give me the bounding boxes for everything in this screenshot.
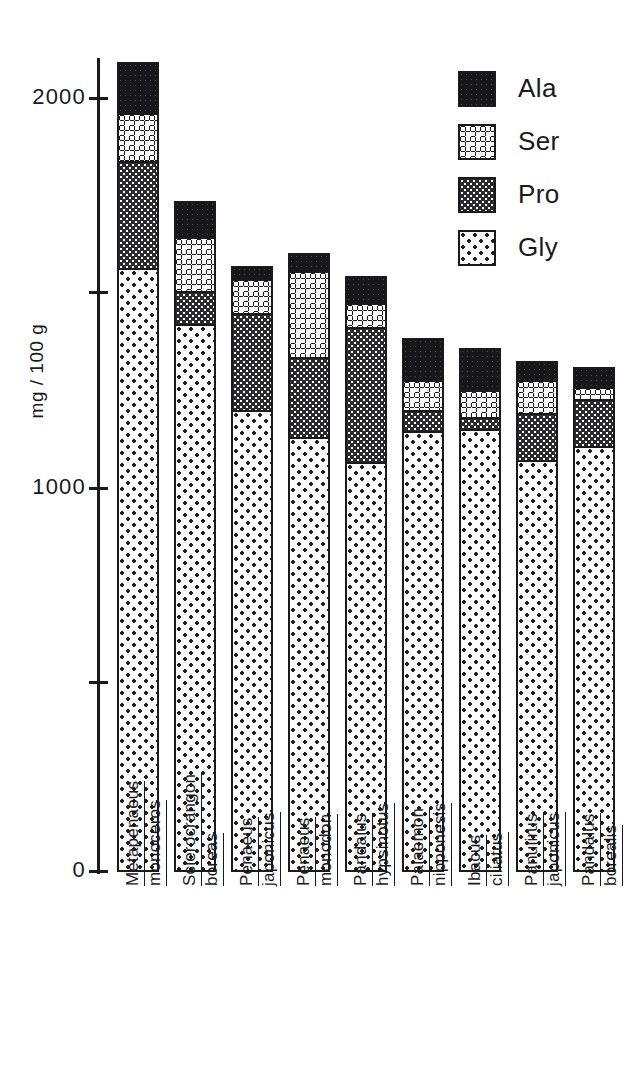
x-label-sclerocrangon-boreas: Sclerocrangon boreas	[180, 696, 224, 886]
x-label-ibacus-ciliatus: Ibacus ciliatus	[465, 696, 509, 886]
segment-ala	[575, 369, 613, 387]
segment-pro	[119, 161, 157, 268]
segment-ser	[575, 387, 613, 399]
x-label-palaemon-nipponesis: Palaemon nipponesis	[408, 696, 452, 886]
x-label-line2: japonicus	[544, 812, 566, 886]
legend-swatch-ala-icon	[458, 71, 496, 107]
segment-ala	[461, 350, 499, 390]
segment-ala	[290, 255, 328, 271]
legend-label-gly: Gly	[518, 232, 558, 263]
x-label-pandalus-borealis: Pandalus borealis	[579, 696, 623, 886]
legend-swatch-pro-icon	[458, 177, 496, 213]
x-label-panulirus-japonicus: Panulirus japonicus	[522, 696, 566, 886]
x-label-penaeus-japonicus: Penaeus japonicus	[237, 696, 281, 886]
segment-ser	[290, 271, 328, 357]
segment-ala	[404, 340, 442, 380]
segment-pro	[461, 417, 499, 429]
segment-ala	[233, 268, 271, 279]
segment-ala	[347, 278, 385, 303]
x-label-line1: Sclerocrangon	[180, 774, 202, 886]
x-label-metapenaeus-monoceros: Metapenaeus monoceros	[123, 696, 167, 886]
segment-pro	[176, 291, 214, 324]
x-label-line2: japonicus	[259, 812, 281, 886]
segment-ser	[176, 237, 214, 291]
segment-ala	[518, 363, 556, 380]
segment-pro	[233, 313, 271, 410]
x-label-line1: Penaeus	[237, 817, 259, 886]
legend-label-ser: Ser	[518, 126, 560, 157]
segment-ser	[233, 279, 271, 313]
x-label-line1: Ibacus	[465, 835, 487, 886]
x-label-line1: Panulirus	[522, 813, 544, 886]
x-label-line1: Pandalus	[351, 814, 373, 887]
x-label-line2: boreas	[202, 833, 224, 886]
legend-item-ala[interactable]: Ala	[458, 62, 628, 115]
legend-swatch-gly-icon	[458, 230, 496, 266]
segment-ala	[176, 203, 214, 237]
x-label-line1: Pandalus	[579, 814, 601, 887]
legend-label-pro: Pro	[518, 179, 560, 210]
x-label-line1: Metapenaeus	[123, 781, 145, 886]
x-label-penaeus-monodon: Penaeus monodon	[294, 696, 338, 886]
legend: Ala Ser Pro Gly	[458, 62, 628, 274]
segment-pro	[518, 413, 556, 460]
x-label-line2: monodon	[316, 814, 338, 886]
segment-pro	[404, 410, 442, 431]
segment-pro	[575, 399, 613, 446]
legend-swatch-ser-icon	[458, 124, 496, 160]
segment-ser	[404, 380, 442, 410]
segment-pro	[290, 357, 328, 437]
x-label-line2: hypsinotus	[373, 803, 395, 886]
chart-figure: 2000 1000 0 mg / 100 g	[0, 0, 644, 1068]
x-label-line2: monoceros	[145, 800, 167, 886]
segment-ser	[119, 113, 157, 161]
legend-item-gly[interactable]: Gly	[458, 221, 628, 274]
legend-item-pro[interactable]: Pro	[458, 168, 628, 221]
x-label-line1: Penaeus	[294, 817, 316, 886]
x-label-line2: ciliatus	[487, 832, 509, 886]
legend-item-ser[interactable]: Ser	[458, 115, 628, 168]
x-label-line2: nipponesis	[430, 803, 452, 886]
legend-label-ala: Ala	[518, 73, 557, 104]
segment-pro	[347, 327, 385, 462]
x-label-line1: Palaemon	[408, 808, 430, 886]
segment-ala	[119, 64, 157, 113]
x-label-line2: borealis	[601, 825, 623, 886]
segment-ser	[347, 303, 385, 327]
x-label-pandalus-hypsinotus: Pandalus hypsinotus	[351, 696, 395, 886]
segment-ser	[518, 380, 556, 413]
segment-ser	[461, 390, 499, 417]
